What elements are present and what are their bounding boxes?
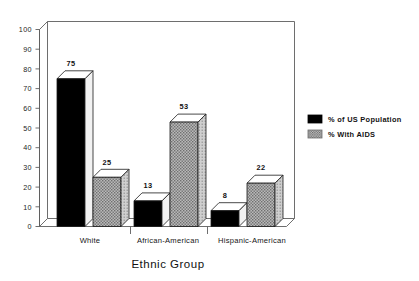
y-tick-label-100: 100 (19, 25, 32, 34)
value-label-african-population: 13 (144, 181, 153, 190)
chart-canvas: 100 90 80 70 60 50 40 30 20 10 0 75 25 (0, 0, 419, 281)
legend-swatch-population (308, 115, 322, 123)
y-tick-label-10: 10 (23, 203, 32, 212)
y-tick-label-40: 40 (23, 143, 32, 152)
legend-label-aids: % With AIDS (328, 130, 375, 139)
y-tick-label-70: 70 (23, 84, 32, 93)
legend-entry-population[interactable]: % of US Population (308, 115, 402, 124)
y-tick-label-60: 60 (23, 104, 32, 113)
y-tick-label-0: 0 (28, 222, 32, 231)
bar-chart: 100 90 80 70 60 50 40 30 20 10 0 75 25 (0, 0, 419, 281)
y-tick-label-90: 90 (23, 45, 32, 54)
y-tick-label-80: 80 (23, 65, 32, 74)
x-tick-label-hispanic-american: Hispanic-American (218, 236, 286, 245)
x-tick-label-african-american: African-American (137, 236, 199, 245)
bar-african-aids[interactable] (170, 114, 206, 226)
value-label-white-aids: 25 (103, 158, 112, 167)
legend-swatch-aids (308, 130, 322, 138)
bar-african-population[interactable] (134, 193, 170, 227)
value-label-hispanic-population: 8 (223, 191, 227, 200)
x-axis-title: Ethnic Group (131, 258, 204, 270)
bar-white-aids[interactable] (93, 169, 129, 226)
y-tick-label-20: 20 (23, 183, 32, 192)
bar-hispanic-population[interactable] (211, 203, 247, 227)
legend-label-population: % of US Population (328, 115, 402, 124)
value-label-african-aids: 53 (180, 102, 189, 111)
value-label-hispanic-aids: 22 (257, 163, 266, 172)
legend-entry-aids[interactable]: % With AIDS (308, 130, 375, 139)
y-tick-label-50: 50 (23, 124, 32, 133)
bar-hispanic-aids[interactable] (247, 175, 283, 226)
value-label-white-population: 75 (67, 59, 76, 68)
bar-white-population[interactable] (57, 71, 93, 227)
x-tick-label-white: White (80, 236, 101, 245)
y-tick-label-30: 30 (23, 163, 32, 172)
